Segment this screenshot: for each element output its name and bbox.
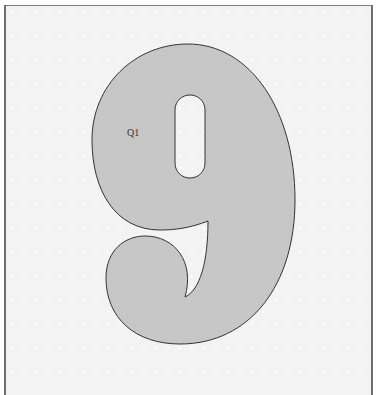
nine-outline <box>92 44 295 344</box>
q1-label: Q1 <box>127 128 139 138</box>
